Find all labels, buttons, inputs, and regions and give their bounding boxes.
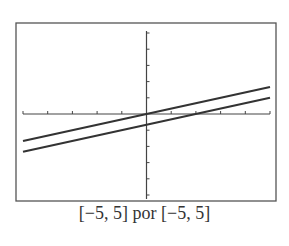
window-range-caption: [−5, 5] por [−5, 5] (0, 203, 289, 224)
